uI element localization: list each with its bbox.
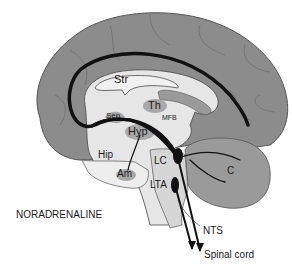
label-hyp: Hyp <box>128 126 148 137</box>
label-mfb: MFB <box>162 114 177 121</box>
label-am: Am <box>117 169 132 179</box>
lta-nucleus <box>171 177 179 193</box>
label-th: Th <box>148 100 161 111</box>
label-sep: Sep <box>106 112 120 120</box>
label-lta: LTA <box>150 180 167 190</box>
diagram-title: NORADRENALINE <box>16 210 102 220</box>
label-spinal-cord: Spinal cord <box>204 250 254 260</box>
label-lc: LC <box>154 156 167 166</box>
lc-nucleus <box>173 148 183 164</box>
label-str: Str <box>114 74 128 85</box>
arrowhead-2 <box>188 241 196 250</box>
arrowhead-1 <box>196 243 204 252</box>
noradrenaline-brain-diagram: Str Th Sep MFB Hyp Hip Am LC LTA C NTS S… <box>0 0 292 267</box>
temporal-lobe <box>82 160 148 188</box>
label-nts: NTS <box>203 226 223 236</box>
label-c: C <box>227 166 234 176</box>
label-hip: Hip <box>98 150 113 160</box>
